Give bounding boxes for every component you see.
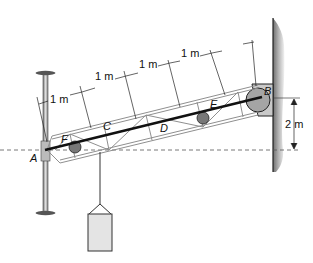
dim-label-1: 1 m [50,93,68,105]
point-label-a: A [29,152,37,164]
point-label-c: C [103,120,111,132]
point-label-b: B [264,85,271,97]
hanging-weight [88,152,112,251]
cable-ab [45,97,262,150]
point-label-d: D [160,122,168,134]
pulley-e [197,112,209,124]
dim-label-3: 1 m [139,58,157,70]
point-label-e: E [210,98,218,110]
dim-label-4: 1 m [181,47,199,59]
wall [273,18,284,172]
dim-label-2: 1 m [95,70,113,82]
dim-label-height: 2 m [285,118,303,130]
crane-diagram: 1 m 1 m 1 m 1 m 2 m A B C D E F [0,0,313,263]
